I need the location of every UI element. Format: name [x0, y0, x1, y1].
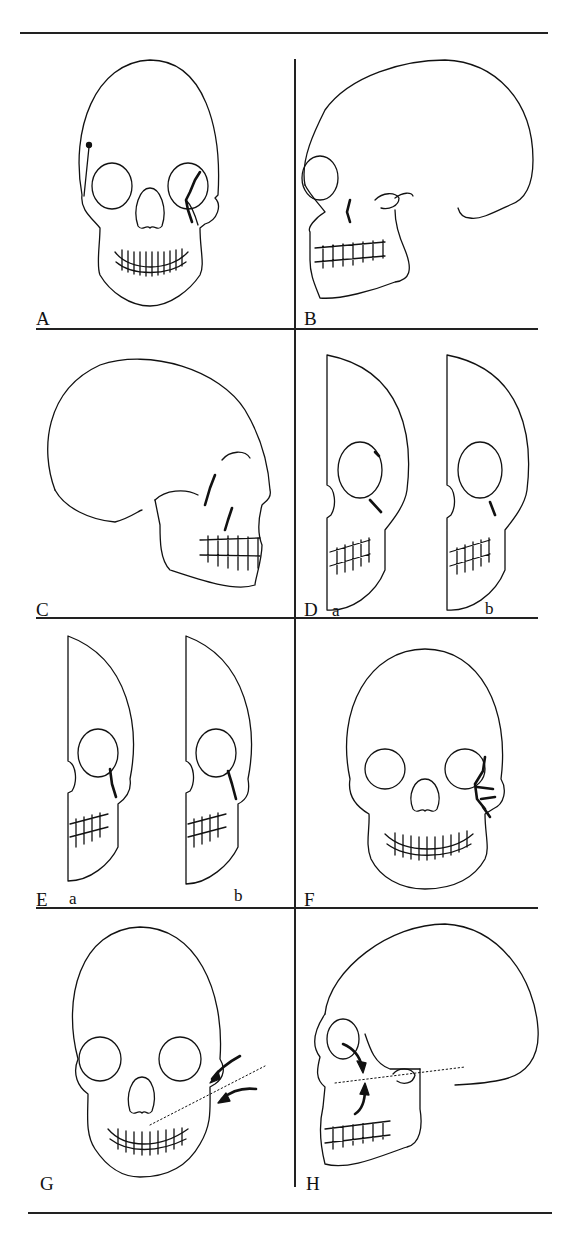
half-skull-pair-d: [295, 330, 568, 617]
sublabel-e-b: b: [234, 887, 243, 904]
bottom-rule: [28, 1212, 552, 1214]
panel-label-b: B: [304, 309, 317, 328]
panel-h: H: [295, 909, 568, 1189]
skull-lateral-arrows-drawing: [295, 909, 568, 1189]
half-skull-e-b: [186, 636, 251, 884]
sublabel-d-b: b: [485, 600, 494, 617]
panel-e: E a b: [0, 619, 294, 907]
panel-b: B: [295, 0, 568, 328]
skull-oblique-drawing: [0, 330, 294, 617]
sublabel-e-a: a: [69, 890, 77, 907]
panel-f: F: [295, 619, 568, 907]
panel-label-c: C: [36, 600, 49, 619]
panel-label-a: A: [36, 309, 50, 328]
half-skull-d-b: [447, 355, 529, 610]
panel-label-h: H: [306, 1174, 320, 1193]
panel-label-e: E: [36, 890, 48, 909]
panel-label-d: D: [304, 600, 318, 619]
skull-frontal-drawing: [0, 0, 294, 328]
sublabel-d-a: a: [332, 602, 340, 619]
panel-label-f: F: [304, 890, 315, 909]
skull-lateral-drawing: [295, 0, 568, 328]
panel-a: A: [0, 0, 294, 328]
panel-d: D a b: [295, 330, 568, 617]
panel-g: G: [0, 909, 294, 1189]
half-skull-pair-e: [0, 619, 294, 907]
half-skull-e-a: [68, 636, 133, 881]
skull-frontal-comminuted-drawing: [295, 619, 568, 907]
half-skull-d-a: [327, 355, 409, 610]
panel-c: C: [0, 330, 294, 617]
skull-frontal-arrows-drawing: [0, 909, 294, 1189]
panel-label-g: G: [40, 1174, 54, 1193]
